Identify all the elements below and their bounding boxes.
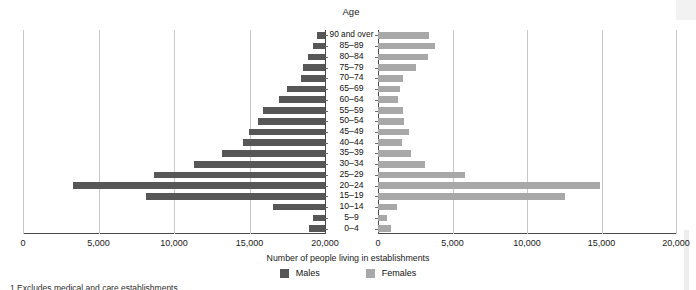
bar-fill bbox=[378, 107, 403, 114]
chart-footnote: 1 Excludes medical and care establishmen… bbox=[10, 283, 180, 290]
bar-males-70-74 bbox=[301, 75, 325, 82]
age-tick-right-3 bbox=[375, 68, 378, 69]
age-tick-right-15 bbox=[375, 196, 378, 197]
age-label-45-49: 45–49 bbox=[325, 127, 378, 136]
bar-females-45-49 bbox=[378, 129, 409, 136]
bar-fill bbox=[249, 129, 325, 136]
bar-females-65-69 bbox=[378, 86, 400, 93]
age-tick-right-1 bbox=[375, 46, 378, 47]
female-plot-panel bbox=[378, 30, 676, 234]
bar-fill bbox=[263, 107, 325, 114]
bar-females-40-44 bbox=[378, 139, 402, 146]
bar-males-20-24 bbox=[73, 182, 325, 189]
bar-males-50-54 bbox=[258, 118, 325, 125]
bar-males-25-29 bbox=[154, 172, 325, 179]
x-tick-label-right-10000: 10,000 bbox=[513, 238, 541, 248]
bar-fill bbox=[243, 139, 325, 146]
bar-females-0-4 bbox=[378, 225, 391, 232]
bar-fill bbox=[378, 86, 400, 93]
gridline-right-15000 bbox=[602, 30, 603, 234]
bar-males-0-4 bbox=[309, 225, 325, 232]
age-label-60-64: 60–64 bbox=[325, 95, 378, 104]
bar-males-30-34 bbox=[194, 161, 325, 168]
age-label-80-84: 80–84 bbox=[325, 52, 378, 61]
age-label-10-14: 10–14 bbox=[325, 202, 378, 211]
bar-fill bbox=[146, 193, 325, 200]
bar-females-85-89 bbox=[378, 43, 435, 50]
bar-females-55-59 bbox=[378, 107, 403, 114]
bar-males-35-39 bbox=[222, 150, 325, 157]
bar-males-85-89 bbox=[313, 43, 325, 50]
x-tick-label-left-10000: 10,000 bbox=[160, 238, 188, 248]
age-tick-left-8 bbox=[325, 121, 328, 122]
gridline-right-20000 bbox=[676, 30, 677, 234]
age-label-20-24: 20–24 bbox=[325, 181, 378, 190]
age-tick-right-7 bbox=[375, 111, 378, 112]
age-tick-left-17 bbox=[325, 218, 328, 219]
age-tick-right-17 bbox=[375, 218, 378, 219]
age-tick-right-6 bbox=[375, 100, 378, 101]
bar-fill bbox=[378, 172, 465, 179]
bar-fill bbox=[287, 86, 325, 93]
age-tick-left-16 bbox=[325, 207, 328, 208]
bar-females-5-9 bbox=[378, 215, 387, 222]
age-tick-left-18 bbox=[325, 229, 328, 230]
bar-males-45-49 bbox=[249, 129, 325, 136]
bar-fill bbox=[378, 75, 403, 82]
age-label-30-34: 30–34 bbox=[325, 159, 378, 168]
age-tick-left-6 bbox=[325, 100, 328, 101]
gridline-left-20000 bbox=[23, 30, 24, 234]
age-tick-left-10 bbox=[325, 143, 328, 144]
age-tick-right-9 bbox=[375, 132, 378, 133]
legend-swatch-males-icon bbox=[280, 269, 289, 278]
age-tick-left-9 bbox=[325, 132, 328, 133]
male-plot-panel bbox=[23, 30, 325, 234]
age-tick-right-18 bbox=[375, 229, 378, 230]
bar-males-15-19 bbox=[146, 193, 325, 200]
bar-males-10-14 bbox=[273, 204, 325, 211]
legend-item-females: Females bbox=[366, 268, 417, 278]
bar-fill bbox=[303, 64, 325, 71]
age-label-0-4: 0–4 bbox=[325, 224, 378, 233]
gridline-right-10000 bbox=[527, 30, 528, 234]
age-label-65-69: 65–69 bbox=[325, 84, 378, 93]
bar-fill bbox=[378, 182, 600, 189]
bar-fill bbox=[279, 96, 325, 103]
gridline-right-5000 bbox=[453, 30, 454, 234]
age-tick-right-5 bbox=[375, 89, 378, 90]
age-tick-right-11 bbox=[375, 153, 378, 154]
legend-item-males: Males bbox=[280, 268, 320, 278]
x-tick-label-right-15000: 15,000 bbox=[588, 238, 616, 248]
bar-fill bbox=[378, 118, 404, 125]
bar-fill bbox=[378, 96, 398, 103]
age-tick-left-0 bbox=[325, 35, 328, 36]
bar-males-65-69 bbox=[287, 86, 325, 93]
age-tick-right-0 bbox=[375, 35, 378, 36]
bar-fill bbox=[378, 54, 428, 61]
chart-legend: Males Females bbox=[0, 268, 696, 278]
bar-females-80-84 bbox=[378, 54, 428, 61]
bar-males-55-59 bbox=[263, 107, 325, 114]
bar-fill bbox=[273, 204, 325, 211]
age-label-70-74: 70–74 bbox=[325, 73, 378, 82]
x-tick-label-left-20000: 20,000 bbox=[311, 238, 339, 248]
bar-females-10-14 bbox=[378, 204, 397, 211]
age-tick-left-11 bbox=[325, 153, 328, 154]
bar-males-60-64 bbox=[279, 96, 325, 103]
age-category-labels: 90 and over85–8980–8475–7970–7465–6960–6… bbox=[325, 30, 378, 234]
bar-males-40-44 bbox=[243, 139, 325, 146]
age-tick-right-13 bbox=[375, 175, 378, 176]
x-tick-label-right-20000: 20,000 bbox=[662, 238, 690, 248]
x-tick-label-right-0: 0 bbox=[375, 238, 380, 248]
bar-fill bbox=[194, 161, 325, 168]
bar-females-35-39 bbox=[378, 150, 411, 157]
age-tick-right-2 bbox=[375, 57, 378, 58]
bar-fill bbox=[378, 129, 409, 136]
bar-females-90-and-over bbox=[378, 32, 429, 39]
age-label-40-44: 40–44 bbox=[325, 138, 378, 147]
bar-fill bbox=[378, 215, 387, 222]
bar-males-5-9 bbox=[313, 215, 325, 222]
bar-fill bbox=[378, 193, 565, 200]
x-tick-label-left-0: 0 bbox=[20, 238, 25, 248]
age-tick-left-12 bbox=[325, 164, 328, 165]
